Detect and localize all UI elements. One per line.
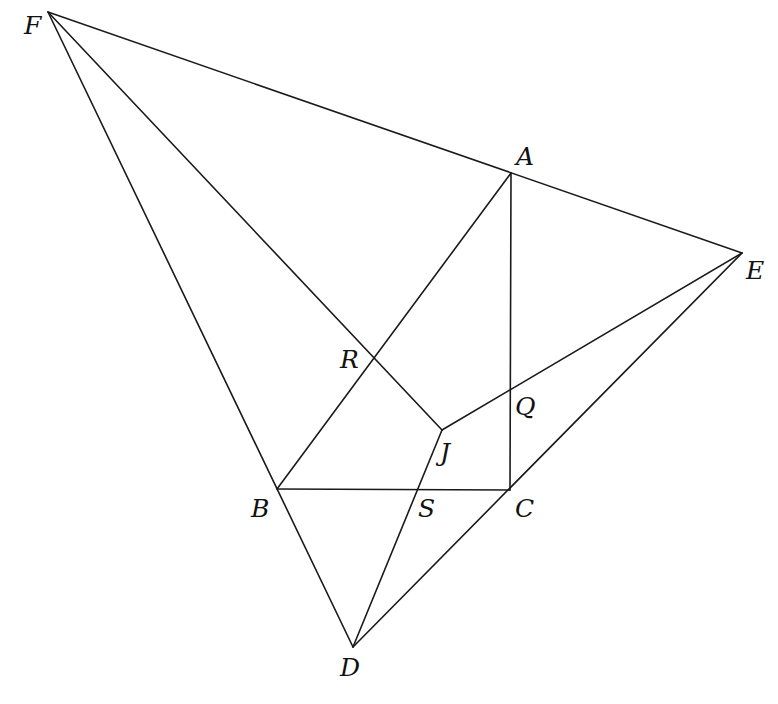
point-label-s: S	[418, 494, 435, 523]
line-segments	[48, 12, 742, 647]
segment-fe	[48, 12, 742, 253]
geometry-figure: FAERQJBSCD	[0, 0, 778, 704]
segment-ac	[510, 173, 511, 490]
point-label-d: D	[339, 653, 360, 682]
point-label-c: C	[515, 494, 534, 523]
segment-fd	[48, 12, 353, 647]
segment-ej	[442, 253, 742, 430]
point-label-r: R	[339, 345, 359, 374]
point-label-b: B	[250, 494, 269, 523]
segment-ab	[277, 173, 511, 489]
segment-bc	[277, 489, 510, 490]
segment-ed	[353, 253, 742, 647]
point-label-q: Q	[515, 392, 536, 421]
point-label-f: F	[23, 11, 43, 40]
segment-jd	[353, 430, 442, 647]
point-label-a: A	[514, 142, 534, 171]
segment-fj	[48, 12, 442, 430]
point-labels: FAERQJBSCD	[23, 11, 764, 682]
point-label-e: E	[745, 256, 764, 285]
diagram-canvas: FAERQJBSCD	[0, 0, 778, 704]
